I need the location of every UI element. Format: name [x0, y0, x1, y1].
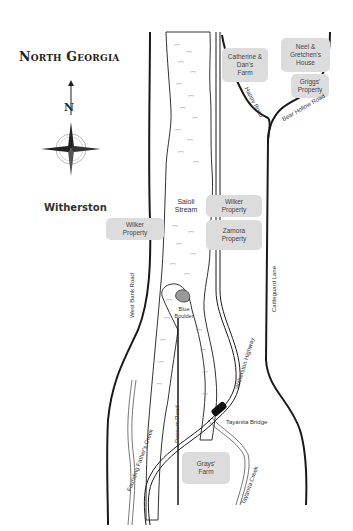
saloli-stream-label: Saloli Stream [170, 198, 202, 214]
blue-boulder-shape [176, 290, 190, 302]
town-label: Witherston [44, 202, 107, 213]
parcel-catherine-dans-farm[interactable]: Catherine & Dan's Farm [222, 48, 268, 82]
parcel-wilker-property-west[interactable]: Wilker Property [106, 218, 164, 240]
parcel-grays-farm[interactable]: Grays' Farm [182, 452, 230, 484]
compass-rose-icon [41, 80, 101, 176]
compass-north-label: N [64, 104, 74, 112]
cattleguard-lane-line [266, 140, 306, 505]
parcel-wilker-property-east[interactable]: Wilker Property [206, 195, 262, 217]
saloli-stream [146, 32, 217, 520]
north-georgia-map: North Georgia N Witherston Catherine & D… [0, 0, 353, 531]
map-title: North Georgia [19, 49, 119, 64]
blue-boulder-label: Blue Boulder [170, 306, 198, 319]
parcel-zamora-property[interactable]: Zamora Property [206, 220, 262, 250]
west-bank-road-label: West Bank Road [129, 273, 135, 318]
cattleguard-lane-label: Cattleguard Lane [271, 266, 277, 312]
possum-road-label: Possum Road [174, 405, 180, 443]
founding-fathers-creek-line [128, 380, 132, 525]
parcel-neel-gretchens-house[interactable]: Neel & Gretchen's House [281, 38, 330, 72]
tayanita-bridge-label: Tayanita Bridge [226, 418, 267, 426]
